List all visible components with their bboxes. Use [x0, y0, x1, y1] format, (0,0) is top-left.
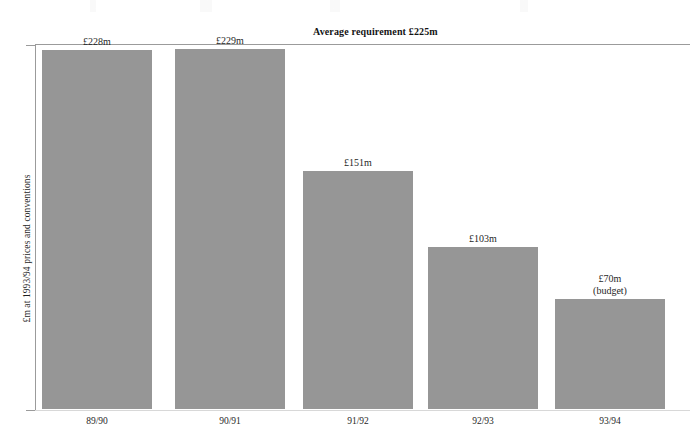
bar-91-92: [303, 171, 413, 409]
x-axis-label-93-94: 93/94: [535, 416, 685, 426]
bar-value-label-91-92: £151m: [283, 157, 433, 169]
bar-value-label-92-93: £103m: [408, 233, 558, 245]
bar-93-94: [555, 299, 665, 409]
x-axis-line: [35, 410, 690, 411]
bar-89-90: [42, 50, 152, 409]
x-axis-label-89-90: 89/90: [22, 416, 172, 426]
bar-value-label-89-90: £228m: [22, 36, 172, 48]
bar-90-91: [175, 49, 285, 409]
bar-chart: £m at 1993/94 prices and conventions Ave…: [0, 0, 694, 442]
bar-value-label-93-94: £70m (budget): [535, 273, 685, 297]
plot-area: £228m89/90£229m90/91£151m91/92£103m92/93…: [0, 0, 694, 442]
bar-value-label-90-91: £229m: [155, 35, 305, 47]
bar-92-93: [428, 247, 538, 409]
